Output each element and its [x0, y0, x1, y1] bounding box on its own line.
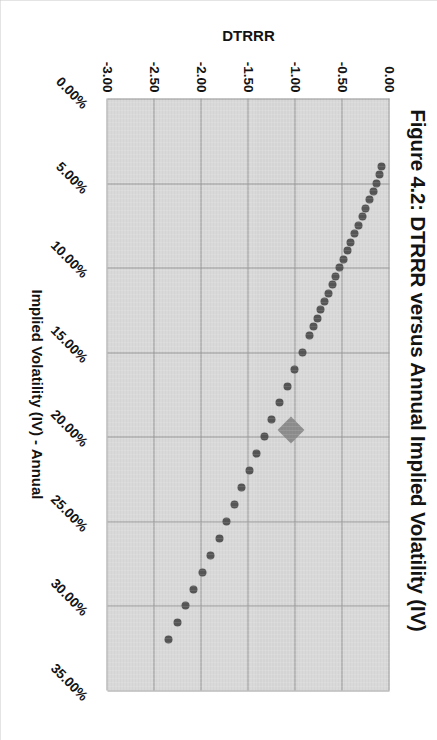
data-point-0-2	[372, 179, 380, 187]
x-tick-label-2: 10.00%	[47, 237, 90, 280]
y-axis-title: DTRRR	[107, 26, 389, 43]
x-tick-label-6: 30.00%	[47, 576, 90, 619]
data-point-0-14	[328, 280, 336, 288]
data-point-0-13	[331, 272, 339, 280]
gridline-horizontal-4	[200, 98, 201, 690]
gridline-horizontal-6	[106, 98, 107, 690]
data-point-0-32	[215, 534, 223, 542]
data-point-0-25	[268, 415, 276, 423]
data-point-0-9	[346, 238, 354, 246]
data-point-0-12	[335, 263, 343, 271]
y-tick-label-5: -2.50	[147, 61, 162, 98]
gridline-horizontal-5	[153, 98, 154, 690]
data-point-0-7	[354, 221, 362, 229]
y-tick-label-6: -3.00	[100, 61, 115, 98]
data-point-0-34	[198, 568, 206, 576]
data-point-0-0	[377, 162, 385, 170]
data-point-0-38	[164, 635, 172, 643]
data-point-0-15	[324, 289, 332, 297]
gridline-horizontal-1	[341, 98, 342, 690]
data-point-0-22	[290, 365, 298, 373]
x-tick-label-4: 20.00%	[47, 407, 90, 450]
data-point-0-26	[260, 432, 268, 440]
data-point-0-33	[206, 551, 214, 559]
x-tick-label-7: 35.00%	[47, 660, 90, 703]
data-point-0-24	[275, 398, 283, 406]
data-point-0-35	[189, 585, 197, 593]
data-point-0-1	[375, 170, 383, 178]
x-tick-label-5: 25.00%	[47, 491, 90, 534]
y-tick-label-0: 0.00	[382, 66, 397, 98]
page-title: Figure 4.2: DTRRR versus Annual Implied …	[405, 0, 429, 740]
data-point-0-27	[252, 449, 260, 457]
data-point-0-16	[320, 297, 328, 305]
data-point-0-6	[358, 212, 366, 220]
data-point-0-29	[237, 483, 245, 491]
data-point-0-28	[245, 466, 253, 474]
x-tick-label-3: 15.00%	[47, 322, 90, 365]
page-canvas: Figure 4.2: DTRRR versus Annual Implied …	[0, 0, 437, 740]
data-point-0-11	[339, 255, 347, 263]
data-point-0-18	[313, 314, 321, 322]
gridline-horizontal-3	[247, 98, 248, 690]
rotated-figure-wrapper: Figure 4.2: DTRRR versus Annual Implied …	[0, 0, 437, 740]
y-tick-label-2: -1.00	[288, 61, 303, 98]
highlight-marker-1-0	[277, 416, 304, 443]
data-point-0-5	[362, 204, 370, 212]
gridline-horizontal-2	[294, 98, 295, 690]
x-tick-label-0: 0.00%	[53, 74, 91, 112]
y-tick-label-4: -2.00	[194, 61, 209, 98]
data-point-0-20	[305, 331, 313, 339]
gridline-horizontal-0	[388, 98, 389, 690]
data-point-0-31	[222, 517, 230, 525]
x-tick-label-1: 5.00%	[53, 158, 91, 196]
data-point-0-21	[298, 348, 306, 356]
data-point-0-19	[309, 322, 317, 330]
figure-container: Figure 4.2: DTRRR versus Annual Implied …	[0, 0, 437, 740]
data-point-0-8	[350, 229, 358, 237]
y-tick-label-1: -0.50	[335, 61, 350, 98]
data-point-0-10	[343, 246, 351, 254]
y-tick-label-3: -1.50	[241, 61, 256, 98]
data-point-0-30	[230, 500, 238, 508]
data-point-0-3	[369, 187, 377, 195]
x-axis-title: Implied Volatility (IV) - Annual	[28, 98, 45, 690]
data-point-0-37	[173, 618, 181, 626]
data-point-0-4	[365, 195, 373, 203]
data-point-0-17	[316, 305, 324, 313]
data-point-0-36	[181, 601, 189, 609]
plot-area	[107, 98, 389, 690]
data-point-0-23	[283, 382, 291, 390]
